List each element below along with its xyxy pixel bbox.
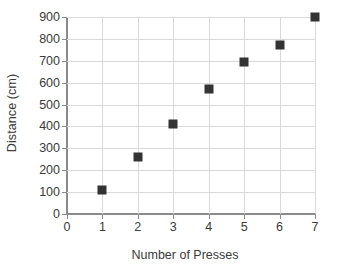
data-point: [240, 57, 249, 66]
gridline-vertical: [138, 17, 139, 214]
gridline-horizontal: [67, 17, 315, 18]
y-axis-tick-label: 500: [39, 98, 60, 112]
x-axis-tick-label: 0: [64, 220, 71, 234]
y-axis-tick-label: 300: [39, 141, 60, 155]
gridline-vertical: [209, 17, 210, 214]
x-axis-tick-mark: [280, 214, 281, 219]
y-axis-tick-label: 800: [39, 32, 60, 46]
x-axis-tick-label: 3: [170, 220, 177, 234]
data-point: [275, 41, 284, 50]
data-point: [98, 185, 107, 194]
y-axis-tick-mark: [62, 83, 67, 84]
y-axis-tick-label: 700: [39, 54, 60, 68]
x-axis-tick-mark: [209, 214, 210, 219]
x-axis-title: Number of Presses: [40, 248, 330, 262]
y-axis-tick-label: 400: [39, 119, 60, 133]
x-axis-tick-mark: [102, 214, 103, 219]
x-axis-tick-label: 2: [134, 220, 141, 234]
gridline-horizontal: [67, 39, 315, 40]
data-point: [204, 85, 213, 94]
scatter-plot-figure: Distance (cm) 01002003004005006007008009…: [0, 0, 341, 277]
gridline-vertical: [315, 17, 316, 214]
y-axis-tick-label: 200: [39, 163, 60, 177]
x-axis-tick-mark: [67, 214, 68, 219]
y-axis-tick-label: 0: [53, 207, 60, 221]
y-axis-tick-mark: [62, 170, 67, 171]
y-axis-tick-mark: [62, 126, 67, 127]
y-axis-title-label: Distance (cm): [5, 73, 19, 151]
y-axis-tick-mark: [62, 61, 67, 62]
gridline-horizontal: [67, 61, 315, 62]
data-point: [133, 153, 142, 162]
y-axis-tick-label: 100: [39, 185, 60, 199]
gridline-horizontal: [67, 126, 315, 127]
x-axis-tick-mark: [173, 214, 174, 219]
x-axis-tick-label: 7: [312, 220, 319, 234]
x-axis-line: [67, 213, 315, 215]
data-point: [311, 13, 320, 22]
x-axis-tick-label: 4: [205, 220, 212, 234]
gridline-horizontal: [67, 83, 315, 84]
gridline-horizontal: [67, 148, 315, 149]
x-axis-tick-labels: 01234567: [67, 220, 315, 238]
x-axis-tick-mark: [138, 214, 139, 219]
data-point: [169, 120, 178, 129]
y-axis-tick-mark: [62, 17, 67, 18]
y-axis-tick-label: 900: [39, 10, 60, 24]
x-axis-tick-label: 5: [241, 220, 248, 234]
y-axis-tick-mark: [62, 148, 67, 149]
x-axis-tick-mark: [244, 214, 245, 219]
gridline-horizontal: [67, 105, 315, 106]
x-axis-tick-mark: [315, 214, 316, 219]
y-axis-line: [66, 17, 68, 214]
gridline-horizontal: [67, 170, 315, 171]
y-axis-title: Distance (cm): [0, 0, 24, 225]
y-axis-tick-mark: [62, 39, 67, 40]
plot-area: [67, 17, 315, 214]
x-axis-tick-label: 1: [99, 220, 106, 234]
y-axis-tick-labels: 0100200300400500600700800900: [24, 10, 64, 220]
y-axis-tick-label: 600: [39, 76, 60, 90]
gridline-vertical: [173, 17, 174, 214]
gridline-vertical: [244, 17, 245, 214]
y-axis-tick-mark: [62, 105, 67, 106]
y-axis-tick-mark: [62, 192, 67, 193]
x-axis-tick-label: 6: [276, 220, 283, 234]
